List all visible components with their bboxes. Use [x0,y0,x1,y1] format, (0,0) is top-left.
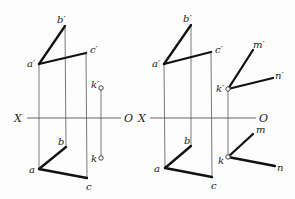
point-label-top-c: c [211,180,217,191]
point-label-front-a: a′ [27,58,36,69]
point-label-front-k: k′ [91,79,100,90]
segment-top-kn [228,157,275,166]
point-marker-front-k [99,86,103,90]
segment-top-ab [39,147,66,169]
projection-line-c [86,53,87,178]
point-label-front-k: k′ [216,83,225,94]
segment-top-ac [39,169,87,178]
point-label-front-b: b′ [183,13,192,24]
point-label-top-c: c [86,181,92,192]
point-label-front-b: b′ [57,14,66,25]
axis-label-x: X [13,112,23,125]
point-marker-top-k [99,156,103,160]
point-label-front-c: c′ [215,44,224,55]
point-marker-front-k [226,87,230,91]
point-label-top-k: k [91,153,97,164]
figure-right: XOa′b′c′k′m′n′abckmn [137,13,284,191]
projection-line-b [65,26,66,147]
figure-left: XOa′b′c′k′abck [13,14,133,192]
point-label-front-c: c′ [90,44,99,55]
axis-label-x: X [137,112,147,125]
point-label-top-m: m [256,124,265,135]
axis-label-o: O [124,112,133,125]
point-marker-top-k [226,155,230,159]
point-label-top-n: n [277,162,283,173]
segment-top-ab [165,146,191,168]
point-label-front-a: a′ [152,58,161,69]
point-label-top-k: k [218,155,224,166]
projection-line-a [164,64,165,168]
point-label-top-a: a [29,164,35,175]
projection-line-c [211,52,212,177]
segment-top-km [228,134,253,157]
segment-top-ac [165,168,212,177]
projection-diagram: XOa′b′c′k′abck XOa′b′c′k′m′n′abckmn [0,0,295,199]
point-label-top-b: b [184,135,190,146]
point-label-top-b: b [58,136,64,147]
point-label-front-n: n′ [275,70,284,81]
point-label-top-a: a [154,163,160,174]
point-label-front-m: m′ [253,39,265,50]
